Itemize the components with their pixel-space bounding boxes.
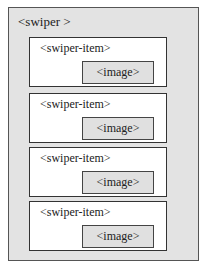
swiper-item-label: <swiper-item> [40,41,111,56]
swiper-item-4: <swiper-item> <image> [29,201,167,251]
swiper-item-3: <swiper-item> <image> [29,147,167,197]
image-box: <image> [82,171,154,194]
swiper-container: <swiper > <swiper-item> <image> <swiper-… [8,7,199,261]
swiper-item-2: <swiper-item> <image> [29,93,167,143]
swiper-label: <swiper > [18,14,71,30]
swiper-item-label: <swiper-item> [40,205,111,220]
image-box: <image> [82,117,154,140]
image-box: <image> [82,225,154,248]
swiper-item-1: <swiper-item> <image> [29,37,167,87]
swiper-item-label: <swiper-item> [40,151,111,166]
image-box: <image> [82,61,154,84]
swiper-item-label: <swiper-item> [40,97,111,112]
